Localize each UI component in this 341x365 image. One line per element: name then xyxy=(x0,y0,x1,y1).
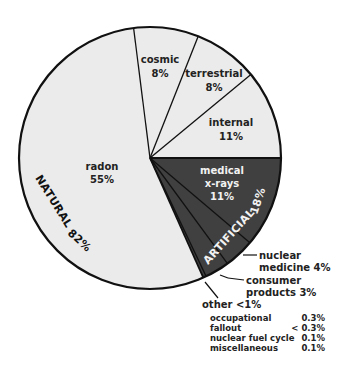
breakdown-value-1: < 0.3% xyxy=(291,323,325,333)
label-terrestrial-pct: 8% xyxy=(206,82,223,93)
breakdown-label-0: occupational xyxy=(210,313,271,323)
label-other: other <1% xyxy=(202,299,261,310)
callout-line-consumer-b xyxy=(228,278,244,280)
breakdown-label-2: nuclear fuel cycle xyxy=(210,333,295,343)
label-medical-pct: 11% xyxy=(210,191,234,202)
breakdown-label-3: miscellaneous xyxy=(210,343,278,353)
label-internal: internal xyxy=(209,117,253,128)
other-breakdown-table: occupational 0.3% fallout < 0.3% nuclear… xyxy=(210,313,325,353)
label-radon-pct: 55% xyxy=(90,174,114,185)
radiation-sources-pie-chart: cosmic 8% terrestrial 8% internal 11% ra… xyxy=(0,0,341,365)
label-radon: radon xyxy=(86,161,119,172)
label-consumer-pct: products 3% xyxy=(246,287,316,298)
breakdown-label-1: fallout xyxy=(210,323,241,333)
callout-line-other xyxy=(205,282,218,298)
callout-line-consumer-a xyxy=(220,275,228,278)
label-xrays: x-rays xyxy=(205,178,239,189)
label-cosmic: cosmic xyxy=(141,54,180,65)
label-internal-pct: 11% xyxy=(219,131,243,142)
label-consumer: consumer xyxy=(246,275,301,286)
label-medical: medical xyxy=(200,165,244,176)
label-nuclear: nuclear xyxy=(259,250,301,261)
label-nuclear-pct: medicine 4% xyxy=(259,262,331,273)
breakdown-value-0: 0.3% xyxy=(301,313,325,323)
breakdown-value-2: 0.1% xyxy=(301,333,325,343)
label-cosmic-pct: 8% xyxy=(152,68,169,79)
label-terrestrial: terrestrial xyxy=(185,68,242,79)
breakdown-value-3: 0.1% xyxy=(301,343,325,353)
